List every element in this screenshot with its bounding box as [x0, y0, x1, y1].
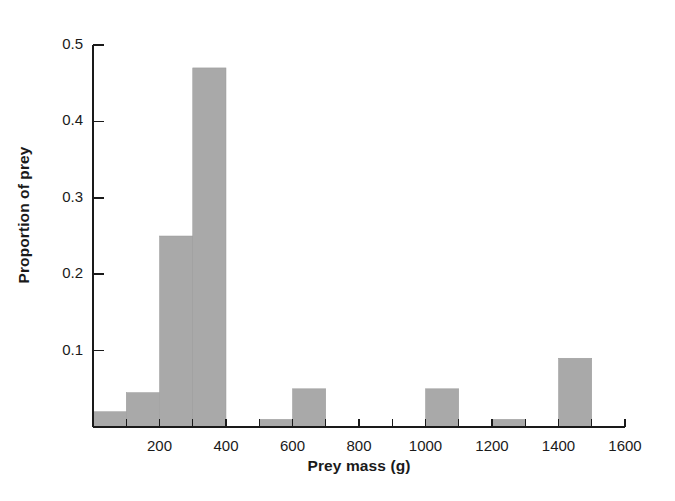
histogram-bar	[160, 236, 193, 427]
y-axis-tick-label: 0.4	[62, 111, 83, 128]
y-axis-tick-label: 0.2	[62, 264, 83, 281]
plot-area: 20040060080010001200140016000.10.20.30.4…	[0, 0, 675, 501]
tick-labels-group: 20040060080010001200140016000.10.20.30.4…	[62, 35, 642, 454]
histogram-bar	[193, 68, 226, 427]
x-axis-tick-label: 1200	[475, 437, 508, 454]
x-axis-tick-label: 1400	[542, 437, 575, 454]
bars-group	[93, 68, 592, 427]
x-axis-tick-label: 1000	[409, 437, 442, 454]
y-axis-tick-label: 0.3	[62, 188, 83, 205]
histogram-figure: Proportion of prey 200400600800100012001…	[0, 0, 675, 501]
histogram-bar	[492, 419, 525, 427]
x-axis-title: Prey mass (g)	[93, 457, 625, 475]
histogram-bar	[259, 419, 292, 427]
histogram-bar	[426, 389, 459, 427]
histogram-bar	[559, 358, 592, 427]
y-axis-tick-label: 0.5	[62, 35, 83, 52]
x-axis-tick-label: 1600	[608, 437, 641, 454]
histogram-bar	[93, 412, 126, 427]
x-axis-tick-label: 200	[147, 437, 172, 454]
histogram-bar	[293, 389, 326, 427]
x-axis-tick-label: 800	[346, 437, 371, 454]
x-axis-tick-label: 600	[280, 437, 305, 454]
histogram-bar	[126, 393, 159, 427]
y-axis-tick-label: 0.1	[62, 341, 83, 358]
x-axis-tick-label: 400	[213, 437, 238, 454]
